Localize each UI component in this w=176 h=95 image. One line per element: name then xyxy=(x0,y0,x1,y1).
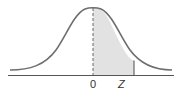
bell-curve xyxy=(10,8,172,70)
normal-distribution-diagram: 0 Z xyxy=(0,0,176,95)
mean-label: 0 xyxy=(90,78,96,90)
shaded-area xyxy=(93,8,134,76)
z-label: Z xyxy=(117,78,126,90)
